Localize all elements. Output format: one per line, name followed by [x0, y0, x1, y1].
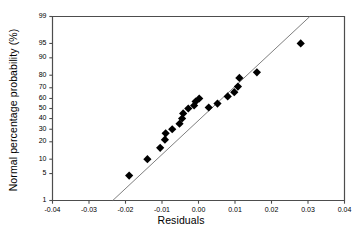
x-tick-label: -0.01: [146, 206, 178, 213]
x-tick-label: -0.03: [73, 206, 105, 213]
data-point: [235, 74, 243, 82]
data-point: [156, 144, 164, 152]
data-point: [162, 129, 170, 137]
x-tick-label: 0.04: [329, 206, 361, 213]
data-point: [125, 171, 133, 179]
y-tick-label: 50: [19, 104, 47, 111]
y-tick-label: 20: [19, 137, 47, 144]
data-point: [253, 68, 261, 76]
y-tick-label: 95: [19, 39, 47, 46]
x-tick-label: -0.02: [110, 206, 142, 213]
x-axis-title: Residuals: [0, 214, 362, 226]
y-axis-title: Normal percentage probability (%): [7, 5, 19, 215]
data-point: [143, 155, 151, 163]
normal-probability-plot: 151020304050607080909599 -0.04-0.03-0.02…: [0, 0, 362, 234]
y-tick-label: 70: [19, 83, 47, 90]
x-tick-label: 0.02: [256, 206, 288, 213]
y-tick-label: 80: [19, 71, 47, 78]
y-tick-label: 90: [19, 53, 47, 60]
data-point-series: [125, 39, 305, 179]
data-point: [161, 136, 169, 144]
x-tick-label: 0.00: [183, 206, 215, 213]
data-point: [224, 92, 232, 100]
y-tick-label: 1: [19, 196, 47, 203]
plot-canvas: [0, 0, 362, 234]
y-tick-label: 30: [19, 125, 47, 132]
y-tick-label: 40: [19, 114, 47, 121]
y-tick-label: 99: [19, 12, 47, 19]
x-tick-label: -0.04: [37, 206, 69, 213]
y-tick-label: 60: [19, 94, 47, 101]
x-tick-label: 0.01: [219, 206, 251, 213]
y-tick-label: 5: [19, 169, 47, 176]
data-point: [205, 103, 213, 111]
data-point: [168, 125, 176, 133]
x-tick-label: 0.03: [292, 206, 324, 213]
data-point: [297, 39, 305, 47]
y-tick-label: 10: [19, 155, 47, 162]
